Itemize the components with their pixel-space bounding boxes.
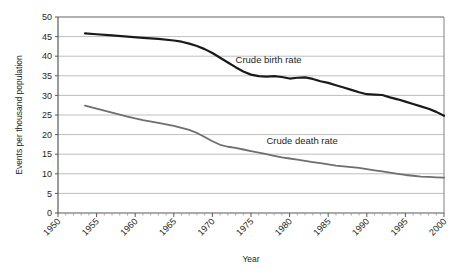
x-tick-label: 1985 (311, 216, 332, 237)
y-tick-label: 50 (42, 12, 52, 22)
y-axis-tick-labels: 05101520253035404550 (42, 12, 52, 218)
line-chart: 05101520253035404550 1950195519601965197… (0, 0, 465, 277)
x-tick-label: 1990 (350, 216, 371, 237)
y-tick-label: 10 (42, 169, 52, 179)
y-tick-label: 40 (42, 51, 52, 61)
x-axis-ticks (58, 213, 444, 217)
x-tick-label: 1960 (118, 216, 139, 237)
x-tick-label: 2000 (427, 216, 448, 237)
x-tick-label: 1970 (196, 216, 217, 237)
x-axis-title: Year (242, 254, 259, 264)
y-tick-label: 45 (42, 32, 52, 42)
series-label-0: Crude birth rate (236, 54, 302, 65)
x-tick-label: 1975 (234, 216, 255, 237)
y-tick-label: 5 (47, 189, 52, 199)
y-tick-label: 35 (42, 71, 52, 81)
y-tick-label: 0 (47, 208, 52, 218)
chart-container: 05101520253035404550 1950195519601965197… (0, 0, 465, 277)
y-tick-label: 25 (42, 110, 52, 120)
y-tick-label: 30 (42, 91, 52, 101)
y-axis-title: Events per thousand population (14, 55, 24, 175)
x-tick-label: 1995 (389, 216, 410, 237)
y-tick-label: 20 (42, 130, 52, 140)
x-tick-label: 1955 (80, 216, 101, 237)
x-axis-tick-labels: 1950195519601965197019751980198519901995… (41, 216, 448, 237)
series-label-1: Crude death rate (266, 135, 337, 146)
x-tick-label: 1950 (41, 216, 62, 237)
y-tick-label: 15 (42, 149, 52, 159)
x-tick-label: 1965 (157, 216, 178, 237)
x-tick-label: 1980 (273, 216, 294, 237)
